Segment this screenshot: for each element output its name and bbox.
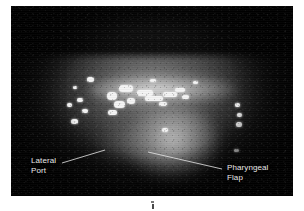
annotation-label-lateral-port-line2: Port bbox=[31, 166, 56, 176]
annotation-label-pharyngeal-flap-line2: Flap bbox=[227, 173, 268, 183]
figure-root: Lateral Port Pharyngeal Flap bbox=[0, 0, 304, 211]
endoscopic-photo-plate: Lateral Port Pharyngeal Flap bbox=[11, 6, 293, 196]
leader-line-pharyngeal-flap bbox=[148, 152, 222, 169]
annotation-label-pharyngeal-flap-line1: Pharyngeal bbox=[227, 163, 268, 173]
annotation-label-pharyngeal-flap: Pharyngeal Flap bbox=[227, 163, 268, 183]
leader-line-lateral-port bbox=[62, 150, 105, 163]
annotation-label-lateral-port: Lateral Port bbox=[31, 156, 56, 176]
print-artifact-mark bbox=[152, 204, 154, 209]
annotation-label-lateral-port-line1: Lateral bbox=[31, 156, 56, 166]
print-artifact-dot bbox=[151, 201, 154, 203]
